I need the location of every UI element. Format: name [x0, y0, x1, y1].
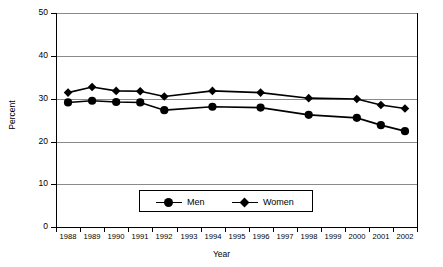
data-point-diamond	[64, 88, 73, 97]
legend-label-men: Men	[187, 197, 205, 207]
data-point-circle	[136, 98, 144, 106]
data-point-diamond	[208, 87, 217, 96]
data-point-circle	[377, 121, 385, 129]
series-women	[64, 83, 410, 113]
data-point-diamond	[401, 104, 410, 113]
data-point-circle	[88, 97, 96, 105]
legend-entry-women: Women	[232, 191, 294, 213]
data-point-circle	[256, 103, 264, 111]
data-point-diamond	[112, 87, 121, 96]
data-point-circle	[208, 103, 216, 111]
legend-entry-men: Men	[156, 191, 205, 213]
legend-label-women: Women	[263, 197, 294, 207]
data-point-circle	[305, 111, 313, 119]
diamond-marker-icon	[232, 197, 258, 207]
data-point-circle	[353, 114, 361, 122]
x-axis-title: Year	[0, 249, 443, 259]
data-point-diamond	[160, 92, 169, 101]
data-point-diamond	[136, 87, 145, 96]
data-point-diamond	[88, 83, 97, 92]
data-point-circle	[64, 98, 72, 106]
data-point-diamond	[353, 95, 362, 104]
data-point-diamond	[377, 101, 386, 110]
data-point-circle	[112, 98, 120, 106]
line-chart: Percent 50 40 30 20 10 0 1988 1989 1990 …	[0, 0, 443, 267]
series-layer	[0, 0, 443, 267]
data-point-circle	[160, 106, 168, 114]
chart-legend: Men Women	[139, 190, 313, 212]
data-point-diamond	[256, 88, 265, 97]
data-point-circle	[401, 127, 409, 135]
data-point-diamond	[304, 94, 313, 103]
circle-marker-icon	[156, 197, 182, 207]
